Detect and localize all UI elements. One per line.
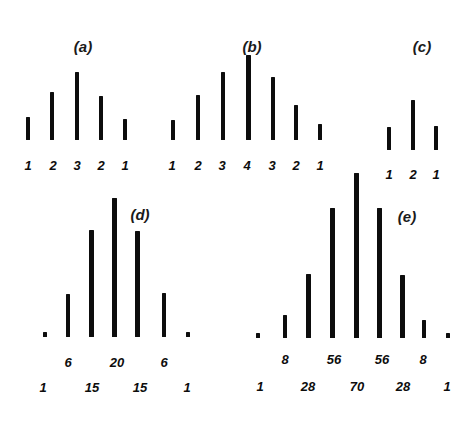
bar-e-2: [306, 274, 311, 338]
bar-e-0: [256, 333, 260, 338]
binomial-distribution-figure: 123211234321121620611515185656812870281(…: [0, 0, 471, 421]
panel-letter-c: (c): [413, 38, 431, 55]
tick-label-e-r0-0: 8: [281, 353, 288, 366]
tick-label-e-r0-2: 56: [375, 353, 389, 366]
bar-e-5: [377, 208, 382, 338]
panel-letter-b: (b): [242, 38, 261, 55]
tick-label-e-r0-3: 8: [419, 353, 426, 366]
bar-e-3: [330, 208, 335, 338]
tick-label-e-r1-3: 28: [396, 380, 410, 393]
tick-label-e-r0-1: 56: [327, 353, 341, 366]
tick-label-e-r1-2: 70: [350, 380, 364, 393]
panel-letter-e: (e): [398, 208, 416, 225]
tick-label-e-r1-0: 1: [256, 380, 263, 393]
panel-letter-a: (a): [74, 38, 92, 55]
bar-e-4: [354, 173, 359, 338]
tick-label-e-r1-1: 28: [301, 380, 315, 393]
bar-e-7: [422, 320, 426, 338]
bar-e-8: [446, 333, 450, 338]
bar-e-6: [400, 275, 405, 338]
tick-label-e-r1-4: 1: [443, 380, 450, 393]
panel-letter-d: (d): [130, 206, 149, 223]
bar-e-1: [283, 315, 287, 338]
